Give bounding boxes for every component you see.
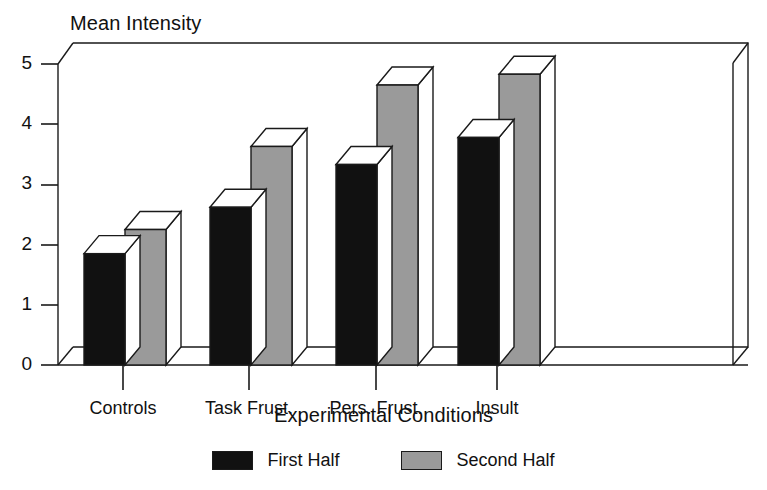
- x-tick-label-insult: Insult: [407, 398, 587, 419]
- y-tick-label-2: 2: [8, 233, 32, 255]
- chart-figure: Mean Intensity Experimental Conditions 0…: [0, 0, 767, 490]
- bar-insult-first-half: [458, 119, 514, 365]
- chart-legend: First HalfSecond Half: [0, 450, 767, 471]
- legend-entry-first-half: First Half: [212, 450, 339, 471]
- legend-label-first-half: First Half: [267, 450, 339, 471]
- bar-pers-frust-first-half: [336, 147, 392, 365]
- bars-group: [84, 56, 555, 365]
- y-tick-label-0: 0: [8, 353, 32, 375]
- bar-task-frust-first-half: [210, 189, 266, 365]
- legend-label-second-half: Second Half: [456, 450, 554, 471]
- y-tick-label-1: 1: [8, 293, 32, 315]
- legend-entry-second-half: Second Half: [401, 450, 554, 471]
- x-axis-ticks: [123, 365, 497, 390]
- y-axis-title: Mean Intensity: [70, 12, 201, 35]
- bar-controls-first-half: [84, 236, 140, 365]
- y-tick-label-3: 3: [8, 172, 32, 194]
- y-axis-ticks: [41, 64, 58, 365]
- legend-swatch-first-half: [212, 451, 253, 470]
- y-tick-label-5: 5: [8, 52, 32, 74]
- legend-swatch-second-half: [401, 451, 442, 470]
- y-tick-label-4: 4: [8, 112, 32, 134]
